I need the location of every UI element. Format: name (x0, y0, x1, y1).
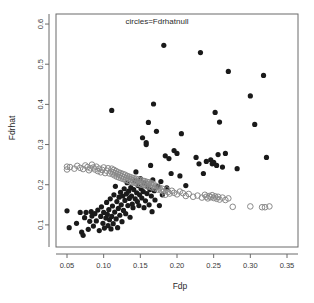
data-point-filled (146, 120, 151, 125)
y-tick-label: 0.6 (36, 19, 45, 29)
data-point-filled (261, 73, 266, 78)
data-point-filled (158, 179, 163, 184)
data-point-filled (94, 218, 99, 223)
data-point-filled (235, 166, 240, 171)
data-point-filled (149, 193, 154, 198)
data-point-filled (82, 215, 87, 220)
figure-background (0, 0, 314, 303)
x-tick-label: 0.30 (243, 261, 258, 270)
x-axis-title: Fdp (173, 281, 188, 291)
plot-title: circles=Fdrhatnull (126, 17, 189, 26)
data-point-filled (114, 199, 119, 204)
data-point-filled (115, 225, 120, 230)
y-tick-label: 0.5 (36, 59, 45, 69)
data-point-filled (99, 204, 104, 209)
data-point-filled (86, 227, 91, 232)
data-point-filled (109, 108, 114, 113)
x-tick-label: 0.20 (170, 261, 185, 270)
data-point-filled (215, 152, 220, 157)
data-point-filled (108, 196, 113, 201)
data-point-filled (140, 135, 145, 140)
data-point-filled (201, 171, 206, 176)
data-point-filled (91, 224, 96, 229)
data-point-filled (152, 197, 157, 202)
data-point-filled (108, 226, 113, 231)
data-point-filled (87, 219, 92, 224)
data-point-filled (144, 142, 149, 147)
data-point-filled (179, 131, 184, 136)
data-point-filled (157, 203, 162, 208)
data-point-filled (97, 228, 102, 233)
data-point-filled (111, 192, 116, 197)
data-point-filled (64, 208, 69, 213)
scatter-plot-figure: 0.050.100.150.200.250.300.35 0.10.20.30.… (0, 0, 314, 303)
data-point-filled (113, 184, 118, 189)
data-point-filled (217, 119, 222, 124)
data-point-filled (151, 101, 156, 106)
chart-canvas: 0.050.100.150.200.250.300.35 0.10.20.30.… (0, 0, 314, 303)
data-point-filled (143, 198, 148, 203)
y-tick-label: 0.3 (36, 139, 45, 149)
data-point-filled (214, 163, 219, 168)
data-point-filled (166, 156, 171, 161)
data-point-filled (198, 50, 203, 55)
data-point-filled (141, 205, 146, 210)
x-tick-label: 0.15 (133, 261, 148, 270)
data-point-filled (110, 203, 115, 208)
y-tick-label: 0.1 (36, 220, 45, 230)
data-point-filled (161, 43, 166, 48)
data-point-filled (196, 161, 201, 166)
y-axis-title: Fdrhat (7, 115, 17, 140)
data-point-filled (264, 155, 269, 160)
data-point-filled (127, 215, 132, 220)
x-tick-label: 0.10 (96, 261, 111, 270)
data-point-filled (133, 169, 138, 174)
data-point-filled (119, 219, 124, 224)
data-point-filled (117, 213, 122, 218)
data-point-filled (220, 164, 225, 169)
x-tick-label: 0.35 (280, 261, 295, 270)
y-tick-label: 0.2 (36, 180, 45, 190)
data-point-filled (177, 173, 182, 178)
data-point-filled (174, 151, 179, 156)
data-point-filled (74, 221, 79, 226)
data-point-filled (109, 214, 114, 219)
data-point-filled (136, 203, 141, 208)
data-point-filled (78, 210, 83, 215)
x-tick-label: 0.05 (60, 261, 75, 270)
data-point-filled (123, 211, 128, 216)
data-point-filled (169, 171, 174, 176)
data-point-filled (226, 69, 231, 74)
data-point-filled (193, 155, 198, 160)
data-point-filled (111, 221, 116, 226)
data-point-filled (213, 110, 218, 115)
data-point-filled (147, 202, 152, 207)
data-point-filled (252, 122, 257, 127)
data-point-filled (148, 163, 153, 168)
data-point-filled (81, 233, 86, 238)
data-point-filled (100, 221, 105, 226)
data-point-filled (248, 93, 253, 98)
data-point-filled (119, 202, 124, 207)
data-point-filled (223, 151, 228, 156)
data-point-filled (183, 183, 188, 188)
y-tick-label: 0.4 (36, 99, 45, 109)
data-point-filled (67, 225, 72, 230)
data-point-filled (83, 210, 88, 215)
data-point-filled (130, 205, 135, 210)
x-tick-label: 0.25 (206, 261, 221, 270)
data-point-filled (154, 129, 159, 134)
data-point-filled (122, 186, 127, 191)
data-point-filled (149, 209, 154, 214)
